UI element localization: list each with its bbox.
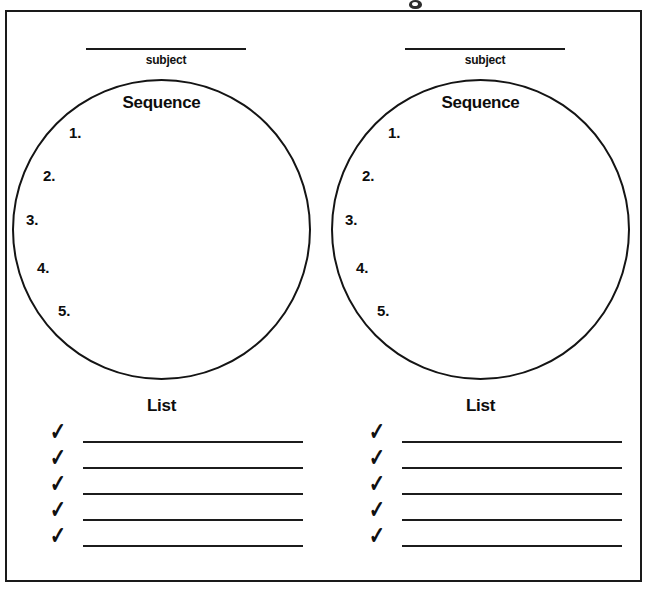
check-icon: ✓	[368, 445, 385, 470]
sequence-heading-left: Sequence	[12, 93, 311, 113]
checklist-write-line[interactable]	[402, 441, 622, 443]
checklist-row[interactable]: ✓	[7, 528, 331, 554]
checklist-write-line[interactable]	[402, 493, 622, 495]
sequence-circle-right	[331, 79, 630, 380]
checklist-row[interactable]: ✓	[326, 528, 649, 554]
checklist-write-line[interactable]	[402, 519, 622, 521]
checklist-write-line[interactable]	[402, 545, 622, 547]
sequence-step-4-left[interactable]: 4.	[37, 259, 50, 276]
organizer-panel-right: subject Sequence 1. 2. 3. 4. 5. List ✓ ✓…	[326, 12, 649, 584]
checklist-write-line[interactable]	[402, 467, 622, 469]
checklist-write-line[interactable]	[83, 545, 303, 547]
sequence-step-5-left[interactable]: 5.	[58, 302, 71, 319]
sequence-step-3-left[interactable]: 3.	[26, 211, 39, 228]
worksheet-border-frame: subject Sequence 1. 2. 3. 4. 5. List ✓ ✓…	[5, 10, 642, 582]
check-icon: ✓	[49, 419, 66, 444]
organizer-panel-left: subject Sequence 1. 2. 3. 4. 5. List ✓ ✓…	[7, 12, 331, 584]
check-icon: ✓	[49, 523, 66, 548]
sequence-step-3-right[interactable]: 3.	[345, 211, 358, 228]
sequence-step-5-right[interactable]: 5.	[377, 302, 390, 319]
worksheet-page: subject Sequence 1. 2. 3. 4. 5. List ✓ ✓…	[0, 0, 649, 601]
subject-caption-left: subject	[86, 53, 246, 67]
check-icon: ✓	[368, 419, 385, 444]
checklist-write-line[interactable]	[83, 493, 303, 495]
check-icon: ✓	[49, 471, 66, 496]
list-heading-right: List	[331, 396, 630, 416]
checklist-write-line[interactable]	[83, 467, 303, 469]
check-icon: ✓	[368, 497, 385, 522]
checklist-write-line[interactable]	[83, 519, 303, 521]
checklist-write-line[interactable]	[83, 441, 303, 443]
check-icon: ✓	[49, 497, 66, 522]
sequence-step-1-left[interactable]: 1.	[69, 124, 82, 141]
checklist-right: ✓ ✓ ✓ ✓ ✓	[326, 424, 649, 554]
sequence-circle-left	[12, 79, 311, 380]
check-icon: ✓	[368, 471, 385, 496]
subject-write-line-left[interactable]	[86, 48, 246, 50]
check-icon: ✓	[368, 523, 385, 548]
subject-write-line-right[interactable]	[405, 48, 565, 50]
checklist-left: ✓ ✓ ✓ ✓ ✓	[7, 424, 331, 554]
check-icon: ✓	[49, 445, 66, 470]
sequence-step-1-right[interactable]: 1.	[388, 124, 401, 141]
subject-caption-right: subject	[405, 53, 565, 67]
sequence-step-2-left[interactable]: 2.	[43, 167, 56, 184]
sequence-step-2-right[interactable]: 2.	[362, 167, 375, 184]
page-edge-artifact	[409, 0, 422, 9]
list-heading-left: List	[12, 396, 311, 416]
sequence-heading-right: Sequence	[331, 93, 630, 113]
sequence-step-4-right[interactable]: 4.	[356, 259, 369, 276]
